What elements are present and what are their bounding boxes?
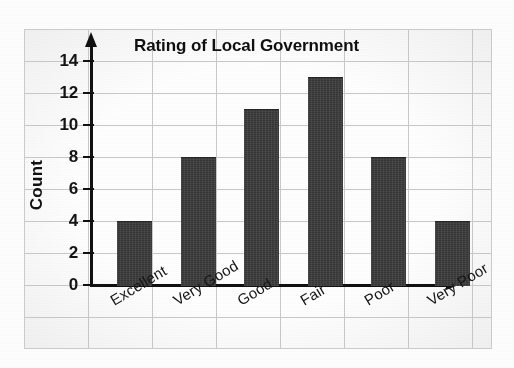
y-axis-tick-label: 14 bbox=[52, 52, 78, 69]
y-axis-title: Count bbox=[27, 135, 47, 235]
bar-fair bbox=[308, 77, 343, 286]
y-axis-tick bbox=[83, 92, 94, 94]
x-axis-label-poor: Poor bbox=[361, 277, 398, 308]
y-axis-tick-label: 2 bbox=[52, 244, 78, 261]
chart-title: Rating of Local Government bbox=[134, 36, 359, 56]
bar-good bbox=[244, 109, 279, 286]
bar-very-good bbox=[181, 157, 216, 286]
chart-screenshot: Rating of Local Government Count 0246810… bbox=[0, 0, 514, 368]
y-axis-tick-label: 0 bbox=[52, 276, 78, 293]
y-axis-tick-label: 12 bbox=[52, 84, 78, 101]
y-axis-tick bbox=[83, 252, 94, 254]
y-axis-tick-label: 8 bbox=[52, 148, 78, 165]
y-axis-tick bbox=[83, 60, 94, 62]
y-axis-tick-label: 4 bbox=[52, 212, 78, 229]
y-axis-tick bbox=[83, 156, 94, 158]
y-axis-line bbox=[90, 44, 93, 287]
y-axis-tick-label: 6 bbox=[52, 180, 78, 197]
y-axis-tick-label: 10 bbox=[52, 116, 78, 133]
y-axis-tick bbox=[83, 284, 94, 286]
y-axis-arrow-icon bbox=[85, 32, 97, 47]
y-axis-tick bbox=[83, 188, 94, 190]
y-axis-tick bbox=[83, 124, 94, 126]
bar-poor bbox=[371, 157, 406, 286]
plot-area: Rating of Local Government Count 0246810… bbox=[0, 0, 514, 368]
y-axis-tick bbox=[83, 220, 94, 222]
